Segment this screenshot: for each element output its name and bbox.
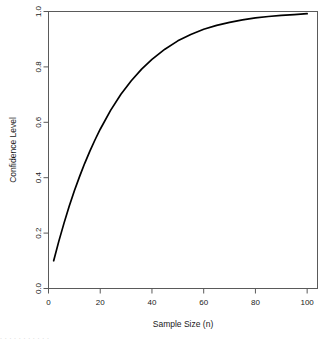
chart-figure: 020406080100 0.00.20.40.60.81.0 Sample S… (0, 0, 335, 340)
plot-frame (49, 12, 318, 289)
x-tick-label: 100 (300, 298, 314, 307)
y-tick-label: 0.0 (34, 282, 43, 294)
y-axis-tick-labels: 0.00.20.40.60.81.0 (34, 5, 43, 294)
x-tick-label: 80 (251, 298, 260, 307)
bottom-cropped-text-artifact: . . . . . . . . . . . (0, 333, 335, 340)
x-tick-label: 40 (148, 298, 157, 307)
confidence-curve (54, 14, 307, 261)
y-tick-label: 0.4 (34, 172, 43, 184)
confidence-level-line-chart: 020406080100 0.00.20.40.60.81.0 Sample S… (0, 0, 335, 340)
y-axis-ticks (44, 12, 49, 289)
y-axis-title: Confidence Level (8, 117, 18, 183)
y-tick-label: 0.6 (34, 116, 43, 128)
y-tick-label: 0.2 (34, 227, 43, 239)
x-axis-ticks (49, 289, 308, 294)
x-axis-title: Sample Size (n) (153, 319, 214, 329)
x-axis-tick-labels: 020406080100 (46, 298, 314, 307)
y-tick-label: 0.8 (34, 61, 43, 73)
x-tick-label: 60 (199, 298, 208, 307)
x-tick-label: 20 (96, 298, 105, 307)
y-tick-label: 1.0 (34, 5, 43, 17)
x-tick-label: 0 (46, 298, 51, 307)
